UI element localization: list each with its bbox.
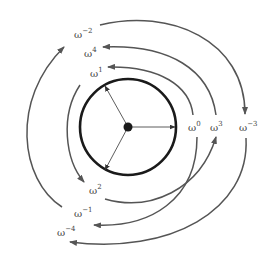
label-w1: ω1 [90, 66, 103, 79]
label-wm4: ω−4 [57, 225, 76, 238]
label-w0: ω0 [188, 120, 201, 133]
label-wm1: ω−1 [74, 206, 92, 219]
label-w3: ω3 [210, 120, 223, 133]
spoke-omega2 [105, 127, 128, 170]
label-wm2: ω−2 [74, 27, 92, 40]
label-w2: ω2 [89, 183, 102, 196]
arrow-w0-to-wm1 [94, 137, 197, 225]
arrow-w0-to-w1 [108, 67, 193, 115]
arrow-wm1-to-wm2 [27, 47, 64, 207]
label-w4: ω4 [84, 46, 97, 59]
label-wm3: ω−3 [239, 120, 257, 133]
roots-of-unity-diagram: ω0ω3ω−3ω1ω4ω−2ω2ω−1ω−4 [0, 0, 269, 260]
arrow-w2-to-w3 [105, 137, 216, 203]
spoke-omega1 [105, 86, 128, 127]
center-dot [124, 123, 133, 132]
